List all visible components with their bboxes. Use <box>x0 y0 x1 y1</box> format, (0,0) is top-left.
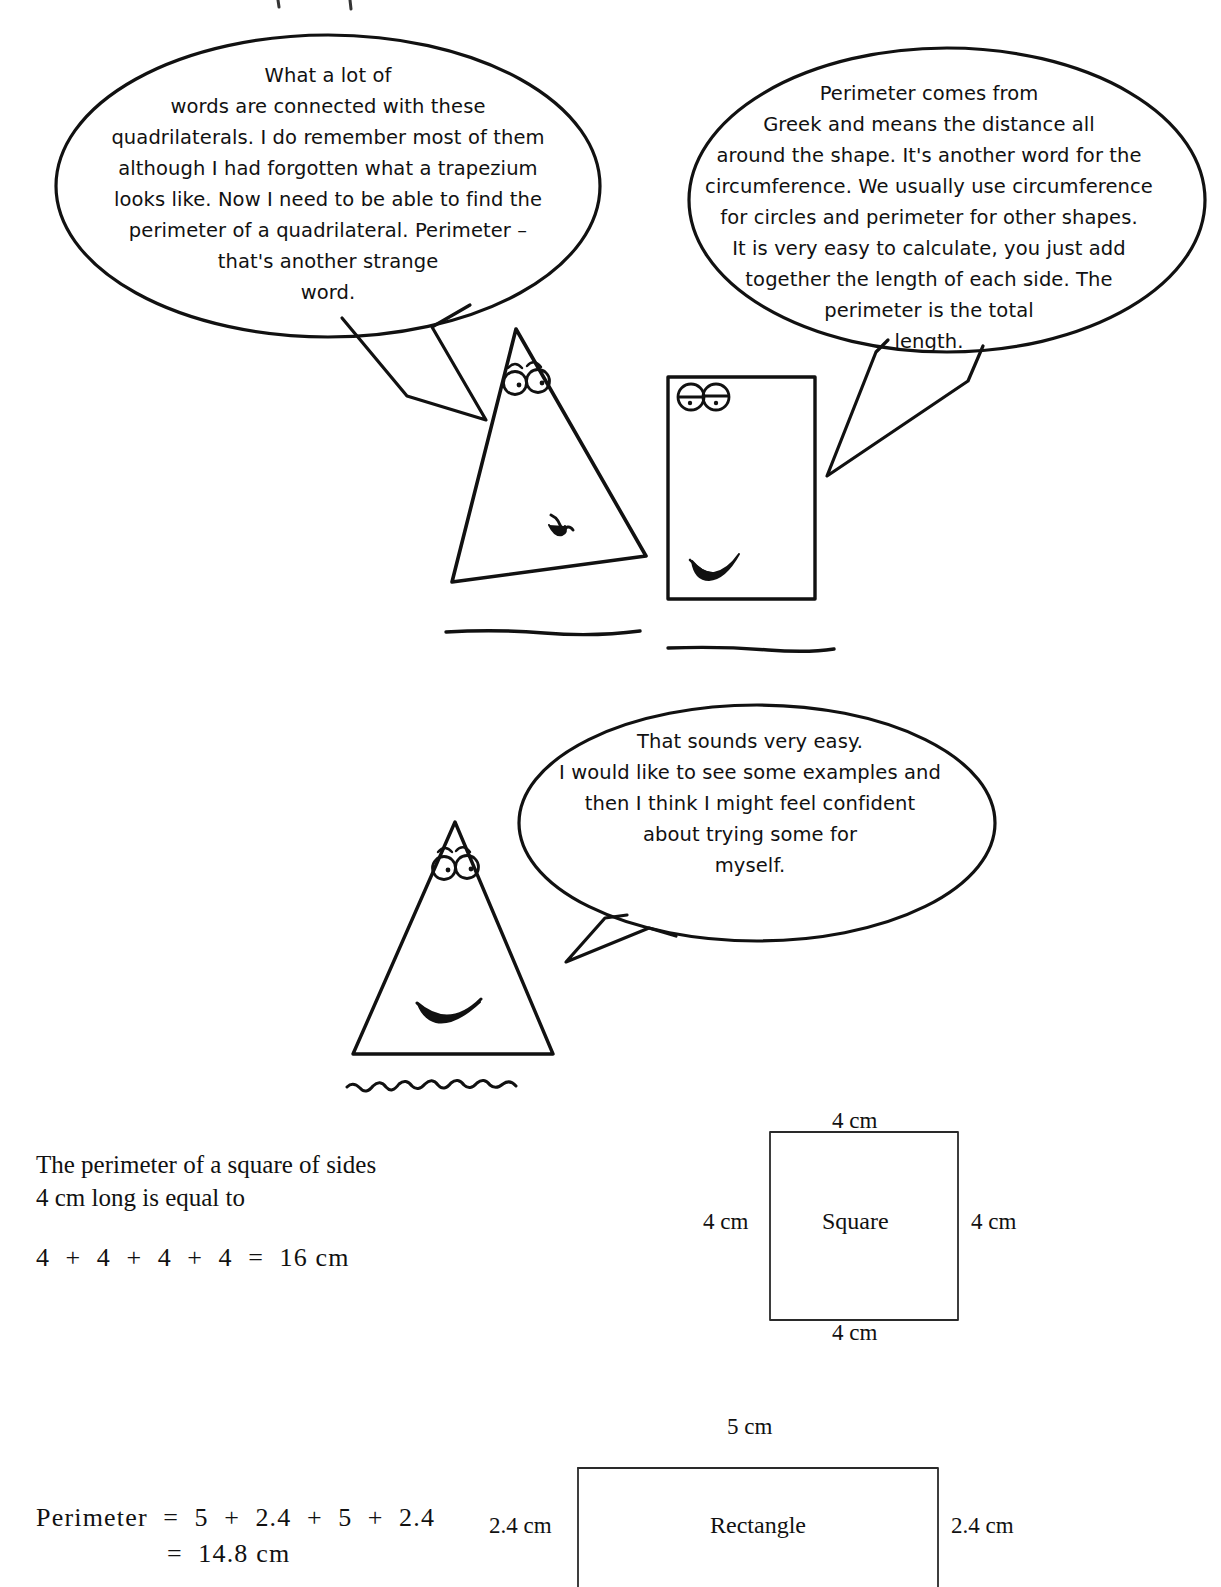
speech-bubble-1-text: What a lot of words are connected with t… <box>48 60 608 308</box>
clipped-heading-marks <box>278 0 351 9</box>
triangle-character-left-face <box>504 362 574 535</box>
triangle-character-left <box>452 329 646 582</box>
rectangle-example-equation-line1: Perimeter = 5 + 2.4 + 5 + 2.4 <box>36 1500 435 1536</box>
speech-bubble-2-text: Perimeter comes from Greek and means the… <box>664 78 1194 357</box>
square-left-dimension-label: 4 cm <box>703 1209 748 1235</box>
square-top-dimension-label: 4 cm <box>832 1108 877 1134</box>
ground-line-1 <box>446 631 640 635</box>
ground-line-2 <box>668 647 834 651</box>
rectangle-right-dimension-label: 2.4 cm <box>951 1513 1014 1539</box>
speech-bubble-3-text: That sounds very easy. I would like to s… <box>500 726 1000 881</box>
square-example-statement: The perimeter of a square of sides 4 cm … <box>36 1148 556 1214</box>
square-shape-name: Square <box>822 1208 889 1235</box>
rectangle-left-dimension-label: 2.4 cm <box>489 1513 552 1539</box>
square-example-equation: 4 + 4 + 4 + 4 = 16 cm <box>36 1240 350 1276</box>
rectangle-top-dimension-label: 5 cm <box>727 1414 772 1440</box>
rectangle-character <box>668 377 815 599</box>
square-right-dimension-label: 4 cm <box>971 1209 1016 1235</box>
worksheet-page: What a lot of words are connected with t… <box>0 0 1221 1587</box>
ground-line-3 <box>347 1080 516 1091</box>
triangle-character-bottom-face <box>417 847 481 1022</box>
rectangle-shape-name: Rectangle <box>710 1512 806 1539</box>
rectangle-example-equation-line2: = 14.8 cm <box>167 1536 290 1572</box>
square-bottom-dimension-label: 4 cm <box>832 1320 877 1346</box>
rectangle-character-face <box>678 384 739 580</box>
